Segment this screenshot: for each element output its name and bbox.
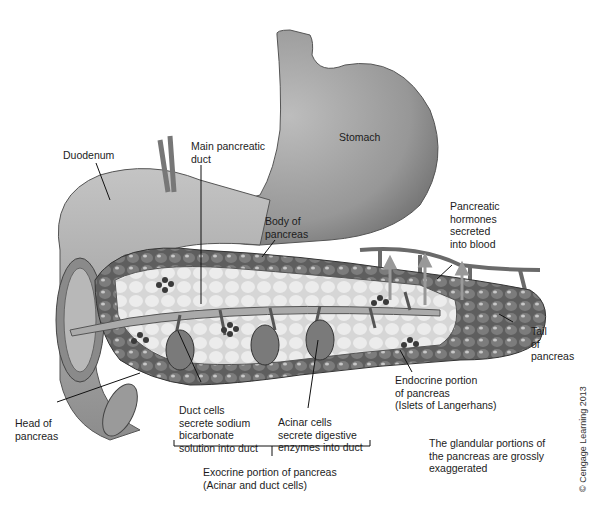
label-main-pancreatic-duct: Main pancreatic duct — [191, 140, 265, 165]
copyright-notice: © Cengage Learning 2013 — [578, 386, 588, 492]
note-exaggerated: The glandular portions of the pancreas a… — [429, 437, 545, 475]
label-exocrine-portion: Exocrine portion of pancreas (Acinar and… — [203, 466, 337, 491]
label-duodenum: Duodenum — [63, 149, 114, 162]
label-tail-of-pancreas: Tail of pancreas — [531, 325, 574, 363]
label-pancreatic-hormones: Pancreatic hormones secreted into blood — [450, 200, 500, 250]
label-endocrine-portion: Endocrine portion of pancreas (Islets of… — [395, 374, 497, 412]
label-head-of-pancreas: Head of pancreas — [15, 417, 58, 442]
label-stomach: Stomach — [339, 131, 380, 144]
label-duct-cells: Duct cells secrete sodium bicarbonate so… — [179, 404, 258, 454]
label-body-of-pancreas: Body of pancreas — [265, 215, 308, 240]
label-acinar-cells: Acinar cells secrete digestive enzymes i… — [278, 416, 363, 454]
